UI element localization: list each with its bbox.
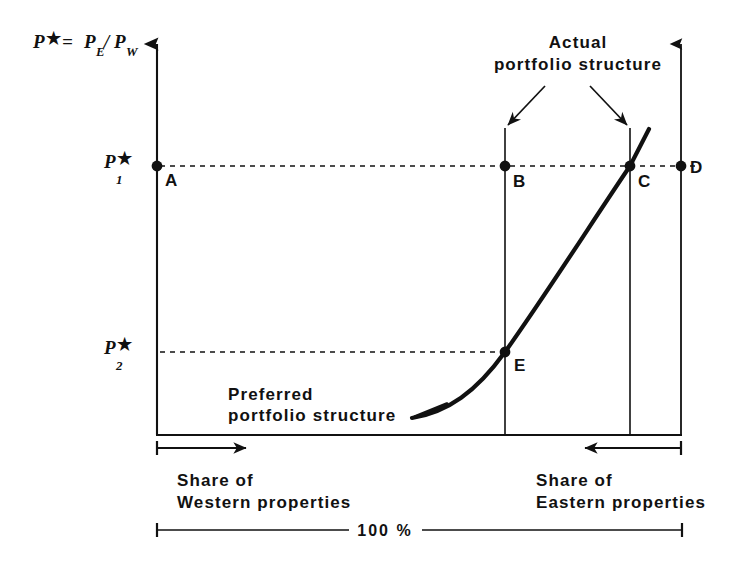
western-share-measure: Share of Western properties: [157, 441, 351, 512]
p2-label-subscript: 2: [115, 358, 123, 373]
preferred-annotation-line2: portfolio structure: [228, 406, 396, 425]
preferred-portfolio-curve: [412, 129, 649, 418]
y-axis-label-equals: =: [62, 31, 73, 52]
point-a-marker: [152, 161, 163, 172]
total-span-label: 100 %: [357, 522, 412, 539]
point-e-marker: [500, 347, 511, 358]
y-axis-label-p-star-base: P: [32, 31, 45, 52]
p1-label-subscript: 1: [116, 172, 123, 187]
p2-label-star: ★: [117, 335, 133, 354]
point-d-marker: [676, 161, 687, 172]
p2-label-base: P: [103, 337, 116, 358]
point-e-label: E: [514, 356, 525, 375]
eastern-share-label-line2: Eastern properties: [536, 493, 706, 512]
p1-label-base: P: [103, 151, 116, 172]
p1-label-star: ★: [117, 149, 133, 168]
point-c-label: C: [638, 172, 650, 191]
p2-value-label-group: P ★ 2: [103, 335, 133, 373]
actual-annotation-arrow-left: [508, 86, 545, 125]
point-a-label: A: [165, 171, 177, 190]
y-axis-label-sub-w: W: [126, 44, 139, 59]
actual-annotation-arrow-right: [590, 86, 627, 125]
actual-annotation-line2: portfolio structure: [494, 55, 662, 74]
point-c-marker: [625, 161, 636, 172]
y-axis-label-p-w: P: [113, 31, 126, 52]
eastern-share-measure: Share of Eastern properties: [536, 441, 706, 512]
actual-annotation-line1: Actual: [549, 33, 608, 52]
point-b-marker: [500, 161, 511, 172]
p1-value-label-group: P ★ 1: [103, 149, 133, 187]
actual-portfolio-annotation: Actual portfolio structure: [494, 33, 662, 125]
total-span-measure: 100 %: [157, 522, 682, 539]
y-axis-label-slash: /: [102, 31, 111, 52]
portfolio-structure-diagram: A B C D E P ★ = P E / P W P ★ 1 P ★ 2: [0, 0, 743, 566]
point-d-label: D: [690, 158, 702, 177]
figure-container: A B C D E P ★ = P E / P W P ★ 1 P ★ 2: [0, 0, 743, 566]
y-axis-label-p-e: P: [83, 31, 96, 52]
point-b-label: B: [513, 172, 525, 191]
y-axis-label-group: P ★ = P E / P W: [32, 29, 139, 59]
eastern-share-label-line1: Share of: [536, 471, 613, 490]
y-axis-label-star-glyph: ★: [46, 29, 62, 48]
preferred-annotation-line1: Preferred: [228, 385, 314, 404]
western-share-label-line1: Share of: [177, 471, 254, 490]
western-share-label-line2: Western properties: [177, 493, 351, 512]
